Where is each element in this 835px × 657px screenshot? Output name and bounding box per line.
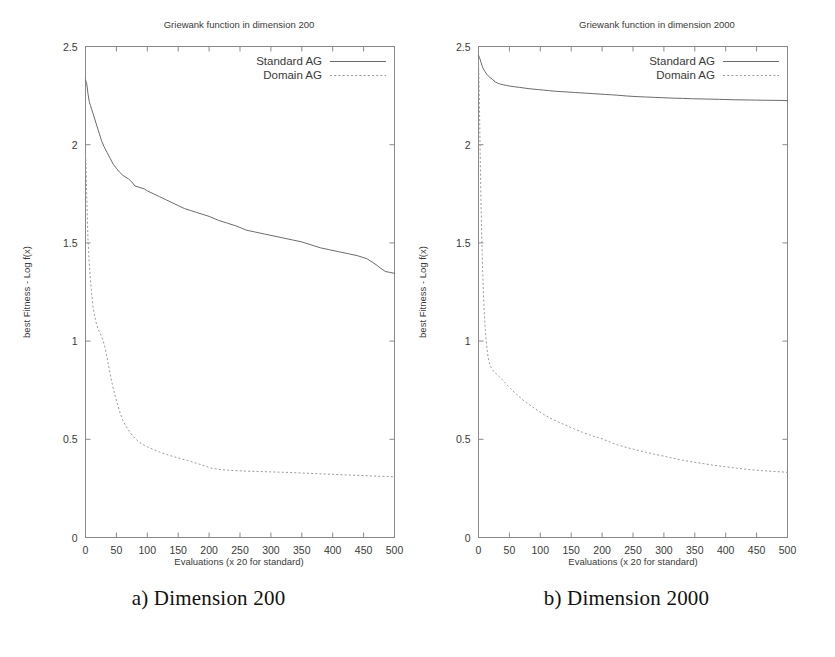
chart-panel-b: Griewank function in dimension 2000 0501… <box>418 8 835 588</box>
caption-dimension-200: a) Dimension 200 <box>0 586 417 611</box>
x-tick-label: 500 <box>779 544 797 556</box>
series-lines-a <box>86 80 395 477</box>
x-axis-label-a: Evaluations (x 20 for standard) <box>174 556 303 567</box>
y-tick-labels-b: 00.511.522.5 <box>456 41 471 544</box>
x-tick-labels-b: 050100150200250300350400450500 <box>476 544 797 556</box>
x-tick-label: 400 <box>324 544 342 556</box>
series-lines-b <box>479 55 788 472</box>
plot-frame-b <box>479 47 788 538</box>
x-tick-label: 0 <box>476 544 482 556</box>
x-tick-label: 50 <box>504 544 516 556</box>
x-tick-label: 400 <box>717 544 735 556</box>
y-tick-label: 1 <box>72 335 78 347</box>
y-tick-label: 2 <box>465 139 471 151</box>
y-tick-label: 1.5 <box>63 237 78 249</box>
legend-label-standard-ag-a: Standard AG <box>256 55 322 67</box>
x-tick-marks-a <box>86 47 395 538</box>
legend-label-domain-ag-a: Domain AG <box>263 69 322 81</box>
chart-panel-a: Griewank function in dimension 200 05010… <box>0 8 417 588</box>
x-tick-label: 300 <box>262 544 280 556</box>
legend-label-domain-ag-b: Domain AG <box>656 69 715 81</box>
y-tick-labels-a: 00.511.522.5 <box>63 41 78 544</box>
figure-two-panel-chart: Griewank function in dimension 200 05010… <box>0 0 835 657</box>
chart-svg-b: Griewank function in dimension 2000 0501… <box>418 8 835 588</box>
y-tick-label: 0.5 <box>456 433 471 445</box>
chart-title-a: Griewank function in dimension 200 <box>164 19 315 30</box>
figure-captions: a) Dimension 200 b) Dimension 2000 <box>0 586 835 636</box>
x-tick-label: 350 <box>293 544 311 556</box>
y-axis-label-b: best Fitness - Log f(x) <box>418 246 428 338</box>
x-tick-labels-a: 050100150200250300350400450500 <box>83 544 404 556</box>
y-tick-label: 1.5 <box>456 237 471 249</box>
caption-dimension-2000: b) Dimension 2000 <box>418 586 835 611</box>
x-tick-label: 150 <box>562 544 580 556</box>
x-tick-label: 100 <box>532 544 550 556</box>
y-tick-label: 2.5 <box>456 41 471 53</box>
y-tick-marks-a <box>86 47 395 538</box>
x-tick-label: 200 <box>593 544 611 556</box>
x-tick-label: 50 <box>111 544 123 556</box>
y-tick-marks-b <box>479 47 788 538</box>
x-tick-label: 350 <box>686 544 704 556</box>
series-line-standard-ag <box>479 55 788 100</box>
x-tick-label: 450 <box>355 544 373 556</box>
x-tick-label: 0 <box>83 544 89 556</box>
x-tick-label: 500 <box>386 544 404 556</box>
y-tick-label: 0 <box>72 532 78 544</box>
y-tick-label: 2 <box>72 139 78 151</box>
plot-frame-a <box>86 47 395 538</box>
y-tick-label: 0 <box>465 532 471 544</box>
series-line-standard-ag <box>86 80 395 273</box>
legend-a: Standard AG Domain AG <box>256 55 386 81</box>
x-tick-label: 200 <box>200 544 218 556</box>
y-axis-label-a: best Fitness - Log f(x) <box>21 246 32 338</box>
series-line-domain-ag <box>479 60 788 472</box>
y-tick-label: 1 <box>465 335 471 347</box>
legend-b: Standard AG Domain AG <box>649 55 779 81</box>
series-line-domain-ag <box>86 155 395 477</box>
x-tick-label: 250 <box>624 544 642 556</box>
legend-label-standard-ag-b: Standard AG <box>649 55 715 67</box>
chart-title-b: Griewank function in dimension 2000 <box>579 19 735 30</box>
x-tick-marks-b <box>479 47 788 538</box>
x-tick-label: 250 <box>231 544 249 556</box>
x-tick-label: 300 <box>655 544 673 556</box>
x-tick-label: 450 <box>748 544 766 556</box>
x-axis-label-b: Evaluations (x 20 for standard) <box>568 556 697 567</box>
chart-svg-a: Griewank function in dimension 200 05010… <box>0 8 417 588</box>
x-tick-label: 150 <box>169 544 187 556</box>
x-tick-label: 100 <box>139 544 157 556</box>
y-tick-label: 0.5 <box>63 433 78 445</box>
y-tick-label: 2.5 <box>63 41 78 53</box>
